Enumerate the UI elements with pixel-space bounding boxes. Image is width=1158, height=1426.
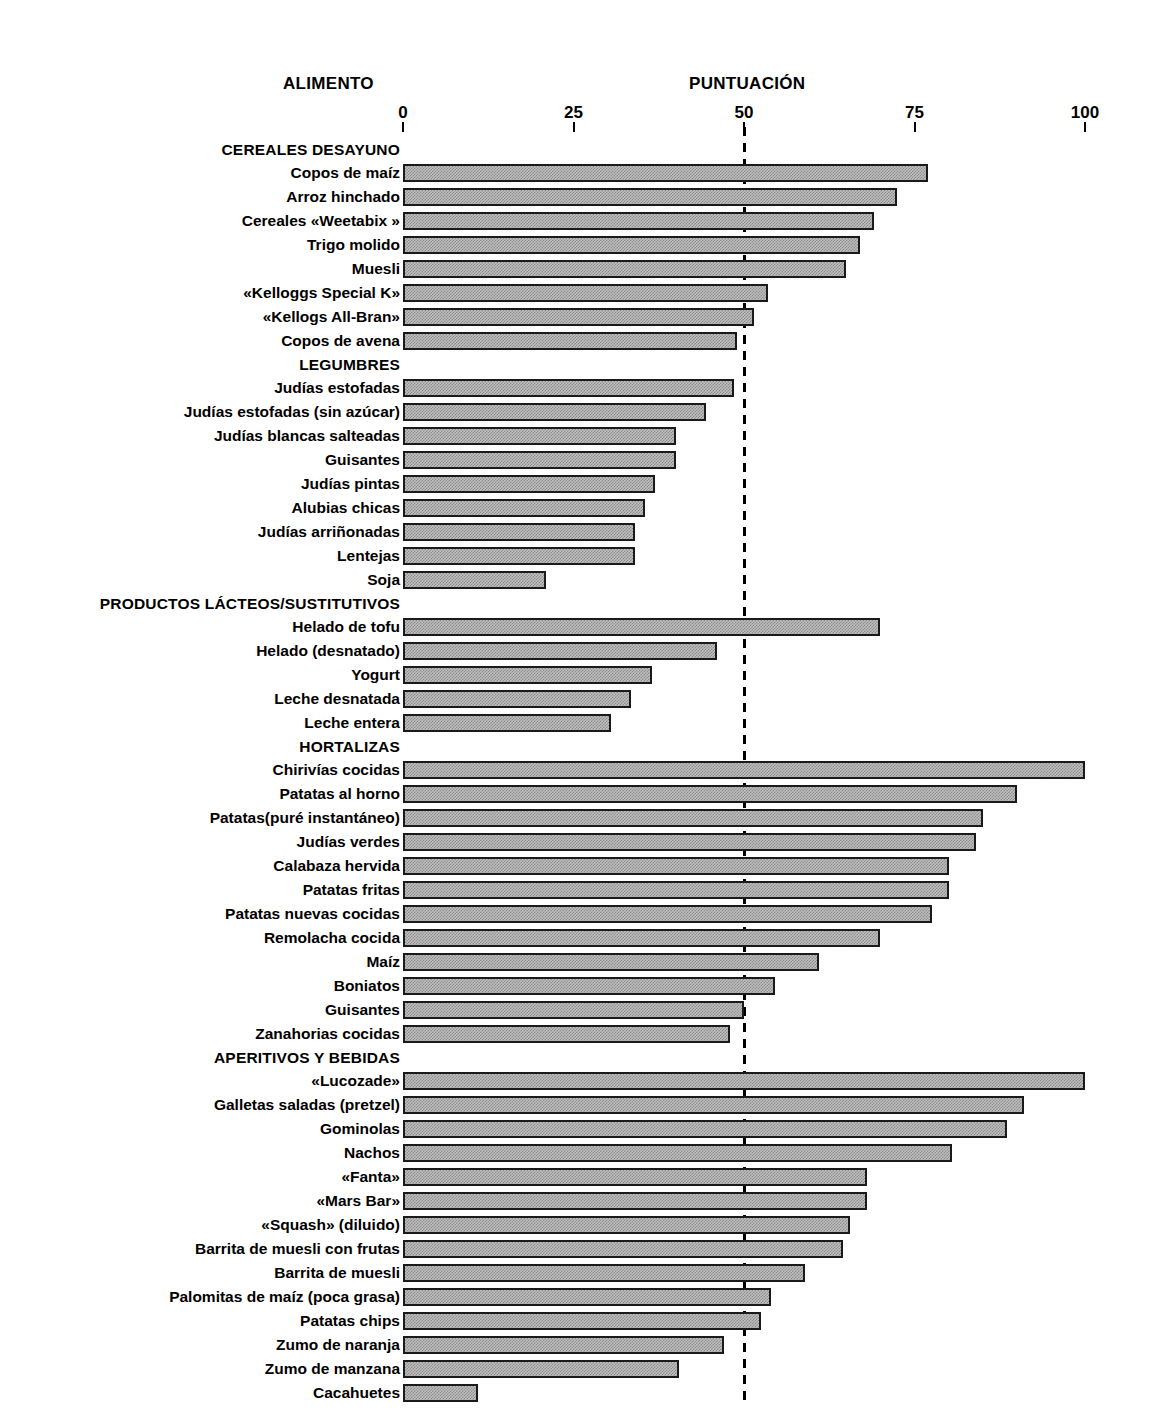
bar-row: Remolacha cocida bbox=[0, 927, 1158, 951]
bar bbox=[403, 785, 1017, 803]
bar bbox=[403, 977, 775, 995]
bar-row: Calabaza hervida bbox=[0, 855, 1158, 879]
bar bbox=[403, 1240, 843, 1258]
bar bbox=[403, 761, 1085, 779]
bar-row-label: Judías pintas bbox=[0, 474, 400, 494]
bar-row: Patatas nuevas cocidas bbox=[0, 903, 1158, 927]
bar bbox=[403, 308, 754, 326]
bar-row: Trigo molido bbox=[0, 234, 1158, 258]
bar-row: Judías estofadas (sin azúcar) bbox=[0, 401, 1158, 425]
bar bbox=[403, 547, 635, 565]
bar bbox=[403, 905, 932, 923]
bar-row-label: Cacahuetes bbox=[0, 1383, 400, 1403]
bar-row-label: «Squash» (diluido) bbox=[0, 1215, 400, 1235]
bar-row-label: Guisantes bbox=[0, 1000, 400, 1020]
bar bbox=[403, 475, 655, 493]
bar bbox=[403, 642, 717, 660]
bar-row-label: Boniatos bbox=[0, 976, 400, 996]
bar-row-label: Maíz bbox=[0, 952, 400, 972]
bar bbox=[403, 1168, 867, 1186]
bar-row: Leche desnatada bbox=[0, 688, 1158, 712]
x-axis-tick-mark bbox=[573, 122, 575, 132]
bar bbox=[403, 1216, 850, 1234]
bar bbox=[403, 1288, 771, 1306]
bar-row: Yogurt bbox=[0, 664, 1158, 688]
bar-row: Judías verdes bbox=[0, 831, 1158, 855]
bar-row: Judías arriñonadas bbox=[0, 521, 1158, 545]
bar-row: Patatas al horno bbox=[0, 783, 1158, 807]
food-column-title: ALIMENTO bbox=[283, 74, 374, 94]
bar-row-label: Leche desnatada bbox=[0, 689, 400, 709]
x-axis-tick-label: 100 bbox=[1071, 103, 1099, 123]
bar bbox=[403, 1001, 744, 1019]
bar-row-label: Remolacha cocida bbox=[0, 928, 400, 948]
bar-row-label: Chirivías cocidas bbox=[0, 760, 400, 780]
bar-row: Alubias chicas bbox=[0, 497, 1158, 521]
x-axis-tick-label: 0 bbox=[398, 103, 407, 123]
bar-row: «Mars Bar» bbox=[0, 1190, 1158, 1214]
bar-row: «Lucozade» bbox=[0, 1070, 1158, 1094]
bar-row-label: Patatas chips bbox=[0, 1311, 400, 1331]
bar bbox=[403, 1192, 867, 1210]
group-heading-label: HORTALIZAS bbox=[0, 737, 400, 757]
group-heading-label: LEGUMBRES bbox=[0, 355, 400, 375]
bar-chart: ALIMENTO PUNTUACIÓN 0255075100 CEREALES … bbox=[0, 0, 1158, 1426]
bar bbox=[403, 571, 546, 589]
bar-row-label: Helado de tofu bbox=[0, 617, 400, 637]
bar-row-label: Zumo de manzana bbox=[0, 1359, 400, 1379]
bar bbox=[403, 833, 976, 851]
bar-row: Judías pintas bbox=[0, 473, 1158, 497]
bar-row-label: Leche entera bbox=[0, 713, 400, 733]
bar-row-label: Helado (desnatado) bbox=[0, 641, 400, 661]
bar bbox=[403, 690, 631, 708]
bar bbox=[403, 403, 706, 421]
bar-row: Copos de avena bbox=[0, 330, 1158, 354]
bar-row: Chirivías cocidas bbox=[0, 759, 1158, 783]
x-axis-tick-label: 75 bbox=[905, 103, 924, 123]
bar-row: Judías estofadas bbox=[0, 377, 1158, 401]
bar bbox=[403, 714, 611, 732]
bar-row-label: Judías arriñonadas bbox=[0, 522, 400, 542]
bar-row-label: Zumo de naranja bbox=[0, 1335, 400, 1355]
bar bbox=[403, 881, 949, 899]
bar-row: Zumo de manzana bbox=[0, 1358, 1158, 1382]
bar bbox=[403, 666, 652, 684]
x-axis-tick-mark bbox=[914, 122, 916, 132]
bar-row-label: Palomitas de maíz (poca grasa) bbox=[0, 1287, 400, 1307]
bar-row: Guisantes bbox=[0, 999, 1158, 1023]
bar bbox=[403, 857, 949, 875]
bar-row-label: Copos de avena bbox=[0, 331, 400, 351]
bar bbox=[403, 1384, 478, 1402]
x-axis-tick-mark bbox=[402, 122, 404, 132]
bar-row: «Kellogs All-Bran» bbox=[0, 306, 1158, 330]
group-heading-row: HORTALIZAS bbox=[0, 736, 1158, 759]
x-axis-tick-label: 25 bbox=[564, 103, 583, 123]
bar-row: Copos de maíz bbox=[0, 162, 1158, 186]
bar bbox=[403, 1144, 952, 1162]
bar bbox=[403, 236, 860, 254]
bar-row: Maíz bbox=[0, 951, 1158, 975]
bar bbox=[403, 379, 734, 397]
bar bbox=[403, 809, 983, 827]
bar-row: Arroz hinchado bbox=[0, 186, 1158, 210]
bar-row-label: Judías blancas salteadas bbox=[0, 426, 400, 446]
bar-row-label: Trigo molido bbox=[0, 235, 400, 255]
bar-row: Lentejas bbox=[0, 545, 1158, 569]
bar-row: Patatas fritas bbox=[0, 879, 1158, 903]
bar-row-label: Galletas saladas (pretzel) bbox=[0, 1095, 400, 1115]
score-column-title: PUNTUACIÓN bbox=[689, 74, 805, 94]
bar-row: Nachos bbox=[0, 1142, 1158, 1166]
bar-row-label: Copos de maíz bbox=[0, 163, 400, 183]
group-heading-row: LEGUMBRES bbox=[0, 354, 1158, 377]
bar-row-label: Arroz hinchado bbox=[0, 187, 400, 207]
bar-row-label: Gominolas bbox=[0, 1119, 400, 1139]
bar-row: Helado de tofu bbox=[0, 616, 1158, 640]
x-axis: 0255075100 bbox=[0, 103, 1158, 129]
bar-row: Cacahuetes bbox=[0, 1382, 1158, 1406]
bar-row-label: Soja bbox=[0, 570, 400, 590]
bar-row-label: «Kelloggs Special K» bbox=[0, 283, 400, 303]
bar-row: Gominolas bbox=[0, 1118, 1158, 1142]
bar-row-label: «Mars Bar» bbox=[0, 1191, 400, 1211]
bar-row-label: Patatas nuevas cocidas bbox=[0, 904, 400, 924]
bar bbox=[403, 1336, 724, 1354]
